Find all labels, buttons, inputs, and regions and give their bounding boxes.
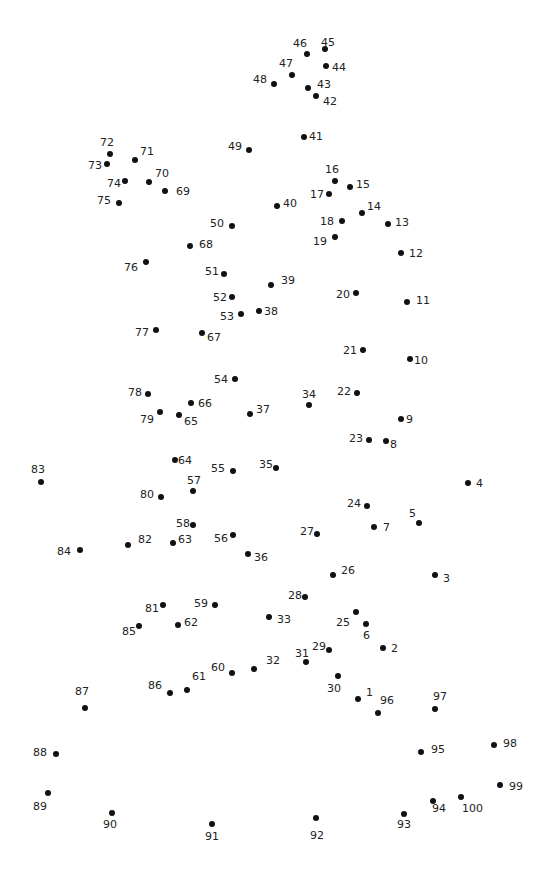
dot-95 (418, 749, 424, 755)
dot-label-57: 57 (187, 475, 201, 486)
dot-label-40: 40 (283, 198, 297, 209)
dot-23 (366, 437, 372, 443)
dot-label-91: 91 (205, 831, 219, 842)
dot-24 (364, 503, 370, 509)
dot-label-16: 16 (325, 164, 339, 175)
dot-7 (371, 524, 377, 530)
dot-label-63: 63 (178, 534, 192, 545)
dot-20 (353, 290, 359, 296)
dot-label-81: 81 (145, 603, 159, 614)
dot-label-55: 55 (211, 463, 225, 474)
dot-42 (313, 93, 319, 99)
dot-label-100: 100 (462, 803, 483, 814)
dot-79 (157, 409, 163, 415)
dot-label-39: 39 (281, 275, 295, 286)
dot-9 (398, 416, 404, 422)
dot-62 (175, 622, 181, 628)
dot-label-56: 56 (214, 533, 228, 544)
dot-label-19: 19 (313, 236, 327, 247)
dot-label-14: 14 (367, 201, 381, 212)
dot-99 (497, 782, 503, 788)
dot-14 (359, 210, 365, 216)
dot-76 (143, 259, 149, 265)
dot-label-29: 29 (312, 641, 326, 652)
dot-71 (132, 157, 138, 163)
dot-label-45: 45 (321, 37, 335, 48)
dot-12 (398, 250, 404, 256)
dot-47 (289, 72, 295, 78)
dot-37 (247, 411, 253, 417)
dot-label-41: 41 (309, 131, 323, 142)
dot-66 (188, 400, 194, 406)
dot-67 (199, 330, 205, 336)
dot-label-70: 70 (155, 168, 169, 179)
dot-34 (306, 402, 312, 408)
dot-label-6: 6 (363, 630, 370, 641)
dot-label-3: 3 (443, 573, 450, 584)
dot-18 (339, 218, 345, 224)
dot-15 (347, 184, 353, 190)
dot-53 (238, 311, 244, 317)
dot-label-66: 66 (198, 398, 212, 409)
dot-97 (432, 706, 438, 712)
dot-label-23: 23 (349, 433, 363, 444)
dot-label-82: 82 (138, 534, 152, 545)
dot-2 (380, 645, 386, 651)
dot-label-97: 97 (433, 691, 447, 702)
dot-label-46: 46 (293, 38, 307, 49)
dot-label-76: 76 (124, 262, 138, 273)
dot-21 (360, 347, 366, 353)
dot-5 (416, 520, 422, 526)
dot-28 (302, 594, 308, 600)
dot-label-36: 36 (254, 552, 268, 563)
dot-label-72: 72 (100, 137, 114, 148)
dot-25 (353, 609, 359, 615)
dot-60 (229, 670, 235, 676)
dot-11 (404, 299, 410, 305)
dot-85 (136, 623, 142, 629)
dot-48 (271, 81, 277, 87)
dot-label-88: 88 (33, 747, 47, 758)
dot-label-37: 37 (256, 404, 270, 415)
dot-55 (230, 468, 236, 474)
dot-label-22: 22 (337, 386, 351, 397)
dot-label-83: 83 (31, 464, 45, 475)
dot-label-78: 78 (128, 387, 142, 398)
dot-51 (221, 271, 227, 277)
dot-label-7: 7 (383, 522, 390, 533)
dot-label-75: 75 (97, 195, 111, 206)
dot-label-69: 69 (176, 186, 190, 197)
dot-27 (314, 531, 320, 537)
dot-96 (375, 710, 381, 716)
dot-to-dot-canvas: 1234567891011121314151617181920212223242… (0, 0, 547, 881)
dot-label-10: 10 (414, 355, 428, 366)
dot-label-99: 99 (509, 781, 523, 792)
dot-57 (190, 488, 196, 494)
dot-label-30: 30 (327, 683, 341, 694)
dot-label-18: 18 (320, 216, 334, 227)
dot-30 (335, 673, 341, 679)
dot-label-12: 12 (409, 248, 423, 259)
dot-label-8: 8 (390, 439, 397, 450)
dot-84 (77, 547, 83, 553)
dot-74 (122, 178, 128, 184)
dot-label-52: 52 (213, 292, 227, 303)
dot-label-25: 25 (336, 617, 350, 628)
dot-label-73: 73 (88, 160, 102, 171)
dot-6 (363, 621, 369, 627)
dot-label-35: 35 (259, 459, 273, 470)
dot-75 (116, 200, 122, 206)
dot-82 (125, 542, 131, 548)
dot-78 (145, 391, 151, 397)
dot-54 (232, 376, 238, 382)
dot-100 (458, 794, 464, 800)
dot-63 (170, 540, 176, 546)
dot-87 (82, 705, 88, 711)
dot-40 (274, 203, 280, 209)
dot-label-49: 49 (228, 141, 242, 152)
dot-label-17: 17 (310, 189, 324, 200)
dot-19 (332, 234, 338, 240)
dot-label-26: 26 (341, 565, 355, 576)
dot-label-20: 20 (336, 289, 350, 300)
dot-80 (158, 494, 164, 500)
